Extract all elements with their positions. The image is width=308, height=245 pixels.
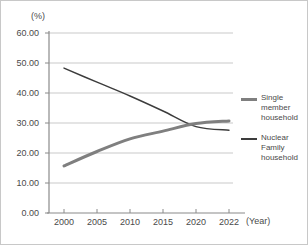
legend-label-single-member-household-line1: Single: [261, 93, 308, 103]
x-tick-label-2020: 2020: [179, 217, 213, 227]
line-chart: (%) (Year) 60.00 50.00 40.00 30.00 20.00…: [1, 1, 308, 245]
legend-item-nuclear-family-household: Nuclear Family household: [241, 133, 308, 163]
legend-swatch-icon-single-member-household: [241, 98, 257, 101]
y-tick-label-50: 50.00: [5, 58, 39, 68]
y-tick-label-10: 10.00: [5, 178, 39, 188]
chart-legend: Single member household Nuclear Family h…: [241, 93, 308, 171]
x-tick-label-2010: 2010: [113, 217, 147, 227]
legend-label-nuclear-family-household-line2: Family: [261, 143, 308, 153]
legend-label-nuclear-family-household-line3: household: [261, 153, 308, 163]
y-tick-label-0: 0.00: [5, 208, 39, 218]
x-axis-unit-label: (Year): [246, 216, 270, 226]
x-tick-label-2000: 2000: [47, 217, 81, 227]
chart-screenshot: (%) (Year) 60.00 50.00 40.00 30.00 20.00…: [0, 0, 308, 245]
y-tick-label-60: 60.00: [5, 28, 39, 38]
legend-item-single-member-household: Single member household: [241, 93, 308, 123]
x-tick-label-2015: 2015: [146, 217, 180, 227]
x-tick-label-2022: 2022: [212, 217, 246, 227]
series-line-single-member-household: [64, 68, 229, 130]
legend-swatch-icon-nuclear-family-household: [241, 138, 257, 140]
x-tick-label-2005: 2005: [80, 217, 114, 227]
legend-label-single-member-household-line3: household: [261, 113, 308, 123]
y-axis-unit-label: (%): [31, 11, 45, 21]
legend-label-nuclear-family-household-line1: Nuclear: [261, 133, 308, 143]
y-tick-label-30: 30.00: [5, 118, 39, 128]
legend-label-single-member-household-line2: member: [261, 103, 308, 113]
y-tick-label-20: 20.00: [5, 148, 39, 158]
y-tick-label-40: 40.00: [5, 88, 39, 98]
